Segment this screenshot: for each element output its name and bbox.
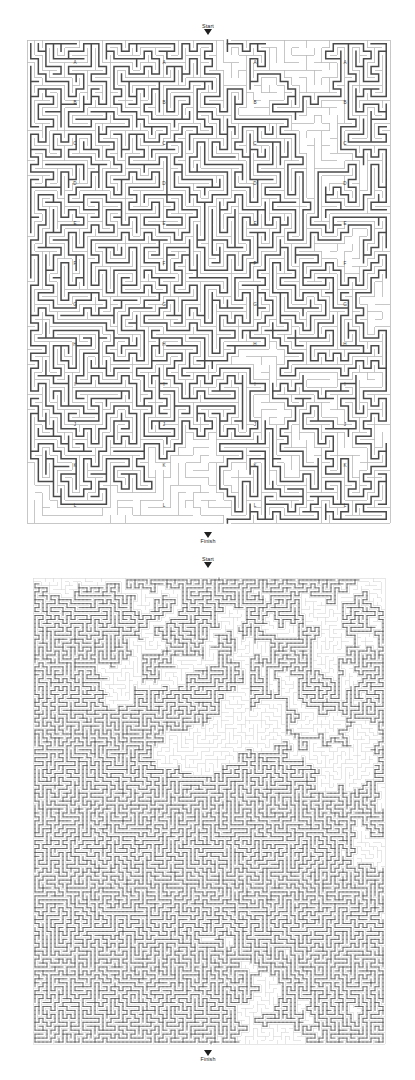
maze-fine — [0, 556, 415, 1080]
maze-coarse-row-label: G — [162, 302, 166, 307]
maze-coarse-row-label: L — [254, 503, 257, 508]
maze-coarse-row-label: F — [254, 261, 257, 266]
maze-coarse-row-label: C — [162, 141, 166, 146]
maze-coarse-row-label: I — [344, 382, 345, 387]
maze-coarse-row-label: L — [163, 503, 166, 508]
maze-fine-walls — [33, 578, 385, 1044]
maze-coarse-row-label: I — [163, 382, 164, 387]
maze-coarse-row-label: G — [73, 302, 77, 307]
maze-coarse-row-label: E — [73, 221, 76, 226]
maze-coarse-row-label: C — [343, 141, 347, 146]
maze-coarse-row-label: I — [74, 382, 75, 387]
maze-coarse-row-label: A — [343, 60, 347, 65]
maze-coarse-row-label: D — [162, 181, 166, 186]
maze-fine-svg — [0, 556, 415, 1080]
down-arrow-icon — [204, 29, 212, 35]
maze-coarse-row-label: I — [254, 382, 255, 387]
maze-coarse-row-label: K — [162, 463, 166, 468]
maze-coarse-row-label: B — [162, 100, 165, 105]
maze-coarse-row-label: B — [343, 100, 346, 105]
maze-coarse-row-label: L — [74, 503, 77, 508]
maze-coarse-row-label: F — [163, 261, 166, 266]
maze-coarse-row-label: J — [74, 422, 76, 427]
maze-coarse-row-label: J — [344, 422, 346, 427]
maze-fine-start-label: Start — [178, 556, 238, 562]
maze-coarse-row-label: H — [162, 342, 165, 347]
maze-coarse-row-label: A — [253, 60, 257, 65]
maze-fine-canvas — [0, 556, 415, 1080]
maze-coarse-row-label: K — [343, 463, 347, 468]
maze-fine-finish-marker: Finish — [178, 1049, 238, 1062]
maze-fine-start-marker: Start — [178, 556, 238, 568]
maze-coarse-row-label: E — [343, 221, 346, 226]
maze-coarse-row-label: F — [344, 261, 347, 266]
maze-coarse-row-label: G — [343, 302, 347, 307]
maze-coarse-start-label: Start — [178, 23, 238, 29]
maze-page: AAAABBBBCCCCDDDDEEEEFFFFGGGGHHHHIIIIJJJJ… — [0, 0, 415, 1080]
maze-coarse-row-label: C — [253, 141, 257, 146]
maze-coarse-row-label: E — [253, 221, 256, 226]
maze-coarse-row-label: J — [254, 422, 256, 427]
maze-coarse-row-label: H — [73, 342, 76, 347]
maze-coarse-finish-label: Finish — [178, 538, 238, 544]
maze-coarse-start-marker: Start — [178, 23, 238, 35]
maze-coarse-canvas: AAAABBBBCCCCDDDDEEEEFFFFGGGGHHHHIIIIJJJJ… — [0, 0, 415, 560]
maze-coarse-row-label: B — [253, 100, 256, 105]
maze-coarse-row-label: D — [343, 181, 347, 186]
maze-coarse-svg: AAAABBBBCCCCDDDDEEEEFFFFGGGGHHHHIIIIJJJJ… — [0, 0, 415, 560]
maze-coarse-row-label: F — [74, 261, 77, 266]
maze-coarse-row-label: G — [253, 302, 257, 307]
maze-coarse-row-label: L — [344, 503, 347, 508]
maze-fine-finish-label: Finish — [178, 1056, 238, 1062]
maze-coarse-row-label: J — [163, 422, 165, 427]
maze-coarse-row-label: B — [73, 100, 76, 105]
maze-coarse: AAAABBBBCCCCDDDDEEEEFFFFGGGGHHHHIIIIJJJJ… — [0, 0, 415, 560]
maze-coarse-row-label: D — [253, 181, 257, 186]
maze-coarse-finish-marker: Finish — [178, 531, 238, 544]
maze-coarse-row-label: H — [253, 342, 256, 347]
down-arrow-icon — [204, 562, 212, 568]
maze-coarse-row-label: H — [343, 342, 346, 347]
maze-coarse-row-label: E — [162, 221, 165, 226]
